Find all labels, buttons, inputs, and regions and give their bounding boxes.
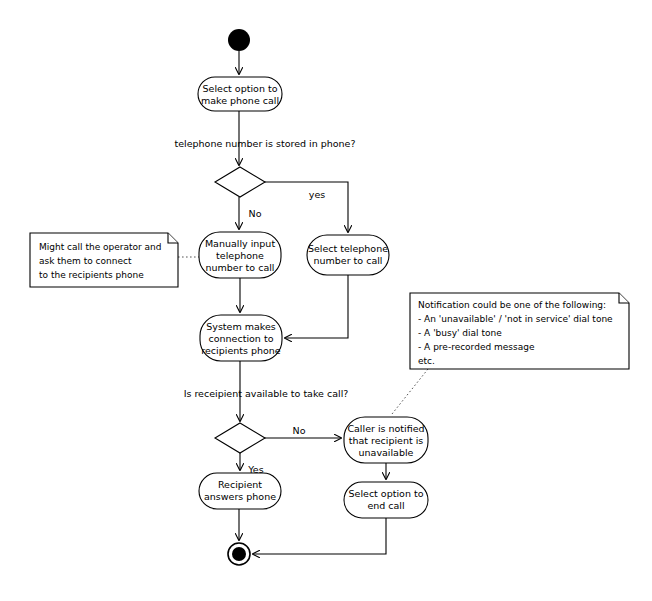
operator-note-line-3: to the recipients phone (39, 270, 144, 280)
notification-note-line-4: - A pre-recorded message (418, 342, 535, 352)
activity-system-connection[interactable]: System makes connection to recipients ph… (200, 315, 282, 361)
notification-note-line-5: etc. (418, 356, 435, 366)
activity-select-option-line-1: Select option to (203, 83, 278, 94)
guard-stored-yes: yes (309, 189, 325, 200)
activity-manual-input-line-3: number to call (206, 262, 275, 273)
initial-node (228, 29, 250, 51)
edge-end-call-to-final (253, 518, 386, 554)
activity-select-option-line-2: make phone call (201, 95, 279, 106)
dep-line-notification-note (392, 369, 428, 414)
activity-recipient-answers-line-2: answers phone (204, 491, 276, 502)
notification-note-line-1: Notification could be one of the followi… (418, 300, 606, 310)
activity-select-telephone-line-2: number to call (314, 255, 383, 266)
notification-note-fold-icon (619, 293, 629, 303)
activity-end-call-line-1: Select option to (349, 488, 424, 499)
final-node-inner-circle (232, 547, 246, 561)
decision-stored[interactable]: telephone number is stored in phone? yes… (174, 138, 355, 219)
activity-manual-input-line-1: Manually input (205, 238, 276, 249)
operator-note-line-2: ask them to connect (39, 256, 132, 266)
notification-note-line-3: - A 'busy' dial tone (418, 328, 502, 338)
guard-stored-question: telephone number is stored in phone? (174, 138, 355, 149)
initial-node-circle (228, 29, 250, 51)
edge-select-telephone-to-system (285, 275, 348, 338)
decision-available[interactable]: Is receipient available to take call? No… (184, 388, 349, 475)
guard-available-no: No (293, 425, 306, 436)
notification-note-line-2: - An 'unavailable' / 'not in service' di… (418, 314, 613, 324)
activity-manual-input[interactable]: Manually input telephone number to call (199, 232, 281, 278)
operator-note-fold-icon (168, 233, 178, 243)
diagram-svg: Select option to make phone call telepho… (0, 0, 652, 601)
activity-recipient-answers-line-1: Recipient (218, 479, 262, 490)
activity-select-option[interactable]: Select option to make phone call (198, 77, 282, 111)
activity-system-connection-line-1: System makes (206, 321, 276, 332)
edge-decision-stored-yes (264, 182, 348, 232)
activity-system-connection-line-3: recipients phone (201, 345, 281, 356)
guard-available-question: Is receipient available to take call? (184, 388, 349, 399)
activity-caller-notified-line-3: unavailable (359, 447, 414, 458)
operator-note[interactable]: Might call the operator and ask them to … (30, 233, 178, 287)
activity-recipient-answers[interactable]: Recipient answers phone (199, 473, 281, 509)
activity-manual-input-line-2: telephone (216, 250, 264, 261)
decision-stored-shape[interactable] (215, 167, 265, 197)
activity-caller-notified[interactable]: Caller is notified that recipient is una… (344, 417, 428, 463)
notification-note[interactable]: Notification could be one of the followi… (410, 293, 629, 369)
final-node (228, 543, 250, 565)
activity-system-connection-line-2: connection to (209, 333, 274, 344)
activity-select-telephone[interactable]: Select telephone number to call (307, 235, 389, 275)
activity-end-call[interactable]: Select option to end call (344, 482, 428, 518)
activity-diagram-canvas: Select option to make phone call telepho… (0, 0, 652, 601)
activity-caller-notified-line-1: Caller is notified (347, 423, 424, 434)
decision-available-shape[interactable] (215, 423, 265, 453)
operator-note-line-1: Might call the operator and (39, 242, 162, 252)
activity-end-call-line-2: end call (367, 500, 404, 511)
guard-stored-no: No (249, 208, 262, 219)
activity-select-telephone-line-1: Select telephone (308, 243, 388, 254)
activity-caller-notified-line-2: that recipient is (349, 435, 424, 446)
